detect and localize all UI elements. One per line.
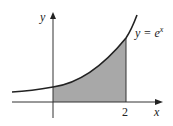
shaded-area [53, 38, 126, 102]
x-axis-label: x [154, 106, 159, 118]
y-axis-label: y [40, 11, 45, 23]
function-text: y = e [135, 26, 160, 40]
function-exponent: x [160, 25, 164, 34]
function-label: y = ex [135, 26, 163, 39]
tick-label-2: 2 [122, 106, 128, 118]
y-axis-arrow-icon [50, 12, 56, 19]
graph [0, 0, 173, 126]
